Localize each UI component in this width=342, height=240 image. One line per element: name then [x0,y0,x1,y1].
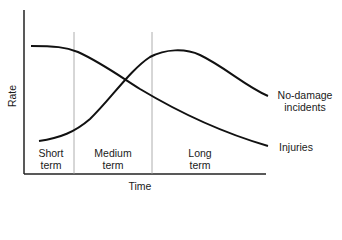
phase-label-line1: Short [30,147,72,159]
series-label-line2: incidents [270,101,340,113]
phase-long-term: Long term [178,147,222,171]
legend-no-damage-incidents: No-damage incidents [270,89,340,113]
y-axis-label: Rate [6,82,18,110]
series-label-line1: No-damage [270,89,340,101]
phase-medium-term: Medium term [88,147,138,171]
phase-label-line1: Long [178,147,222,159]
phase-label-line2: term [30,159,72,171]
x-axis-label: Time [118,180,162,192]
phase-label-line2: term [178,159,222,171]
no-damage-incidents-curve [39,50,268,141]
phase-label-line2: term [88,159,138,171]
injuries-curve [31,46,268,146]
legend-injuries: Injuries [274,141,318,153]
phase-short-term: Short term [30,147,72,171]
phase-label-line1: Medium [88,147,138,159]
